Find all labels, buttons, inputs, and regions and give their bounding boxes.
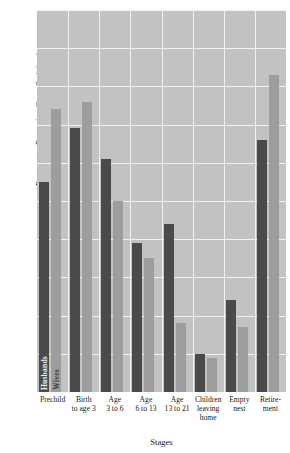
bar-wives <box>144 258 154 392</box>
bar-group <box>255 10 286 392</box>
bar-wives <box>207 358 217 392</box>
bar-group <box>68 10 99 392</box>
legend-label-wives: Wives <box>52 369 61 390</box>
x-axis-title: Stages <box>37 437 286 447</box>
bar-group <box>193 10 224 392</box>
bar-wives <box>238 327 248 392</box>
bar-wives <box>176 323 186 392</box>
x-axis-tick-label: Birth to age 3 <box>68 395 99 413</box>
bar-husbands <box>132 243 142 392</box>
bar-husbands <box>70 128 80 392</box>
bar-group <box>224 10 255 392</box>
bar-group <box>162 10 193 392</box>
x-axis-tick-label: Empty nest <box>224 395 255 413</box>
legend-label-husbands: Husbands <box>40 356 49 390</box>
x-axis-tick-label: Age 13 to 21 <box>162 395 193 413</box>
bar-wives <box>51 109 61 392</box>
bar-husbands <box>226 300 236 392</box>
x-axis-tick-label: Age 3 to 6 <box>99 395 130 413</box>
bar-group <box>99 10 130 392</box>
bar-group: HusbandsWives <box>37 10 68 392</box>
bar-husbands <box>164 224 174 392</box>
bar-husbands <box>195 354 205 392</box>
x-axis-tick-label: Children leaving home <box>193 395 224 423</box>
bar-group <box>130 10 161 392</box>
bar-chart: Percentage Reporting Great Satisfaction … <box>0 0 290 453</box>
bar-husbands <box>101 159 111 392</box>
plot-area: HusbandsWives <box>37 10 286 392</box>
x-axis-tick-label: Age 6 to 13 <box>130 395 161 413</box>
x-axis-tick-label: Prechild <box>37 395 68 404</box>
bar-wives <box>269 75 279 392</box>
bar-husbands <box>257 140 267 392</box>
bar-wives <box>113 201 123 392</box>
x-axis-tick-label: Retire- ment <box>255 395 286 413</box>
bar-wives <box>82 102 92 392</box>
x-axis-tick-labels: PrechildBirth to age 3Age 3 to 6Age 6 to… <box>37 395 286 435</box>
